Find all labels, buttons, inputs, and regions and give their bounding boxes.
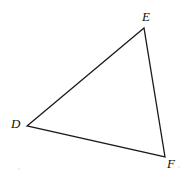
- vertex-label-f: F: [167, 157, 175, 170]
- vertex-label-e: E: [142, 10, 150, 23]
- triangle-drawing-canvas: [0, 0, 187, 181]
- scan-artifact-speck: [178, 166, 180, 168]
- geometry-figure-triangle-def: D E F: [0, 0, 187, 181]
- vertex-label-d: D: [11, 117, 20, 130]
- scan-artifact-speck: [18, 168, 20, 170]
- triangle-def-outline: [27, 28, 165, 157]
